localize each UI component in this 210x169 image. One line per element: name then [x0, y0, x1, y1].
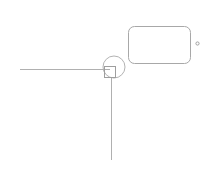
diagram-canvas — [0, 0, 210, 169]
rounded-rectangle-panel — [129, 27, 191, 64]
dot-marker-icon — [196, 42, 199, 45]
junction-square — [105, 67, 116, 78]
wireframe-diagram — [0, 0, 210, 169]
